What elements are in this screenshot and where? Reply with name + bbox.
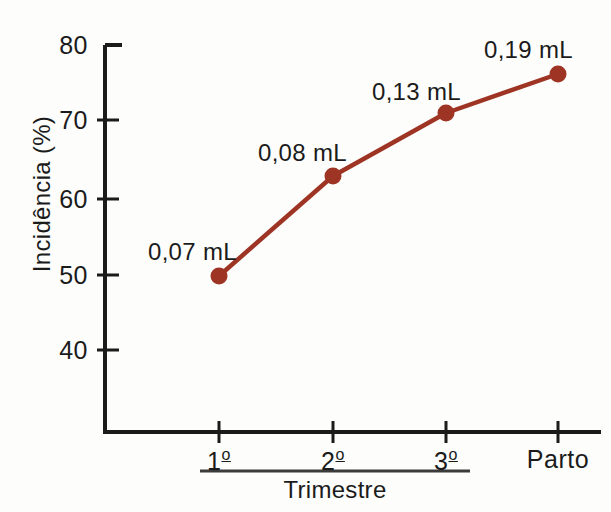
x-tick-label-1-number: 1	[207, 447, 221, 475]
x-tick-label-1-ordinal: o	[222, 446, 231, 463]
y-axis-title: Incidência (%)	[28, 94, 56, 294]
point-annotation-1: 0,07 mL	[148, 240, 237, 264]
y-tick-label-40: 40	[40, 338, 88, 363]
point-annotation-2: 0,08 mL	[258, 141, 347, 165]
x-tick-label-2-number: 2	[321, 447, 335, 475]
point-annotation-4: 0,19 mL	[484, 38, 573, 62]
x-tick-label-3: 3o	[416, 447, 476, 474]
x-tick-label-3-ordinal: o	[449, 446, 458, 463]
point-annotation-3: 0,13 mL	[372, 80, 461, 104]
x-tick-label-parto: Parto	[503, 447, 611, 472]
data-point-4	[550, 66, 567, 83]
chart-plot-area	[0, 0, 611, 512]
data-point-2	[325, 168, 342, 185]
chart-figure: 80 70 60 50 40 Incidência (%) 1o 2o 3o P…	[0, 0, 611, 512]
x-tick-label-3-number: 3	[434, 447, 448, 475]
y-tick-label-80: 80	[40, 33, 88, 58]
x-axis-title: Trimestre	[200, 478, 470, 502]
x-tick-label-1: 1o	[189, 447, 249, 474]
x-tick-label-2-ordinal: o	[336, 446, 345, 463]
y-axis-title-text: Incidência (%)	[28, 116, 55, 272]
x-tick-label-2: 2o	[303, 447, 363, 474]
data-point-3	[438, 105, 455, 122]
data-point-1	[211, 268, 228, 285]
